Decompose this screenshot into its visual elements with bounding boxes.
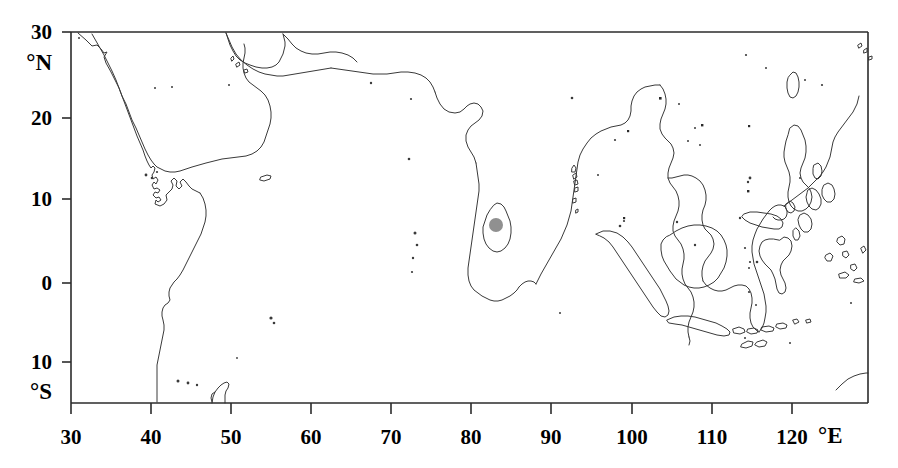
x-tick-label-80: 80 [461, 427, 482, 448]
north-hemisphere-label: °N [0, 51, 52, 74]
x-tick-label-90: 90 [541, 427, 562, 448]
east-hemisphere-label: °E [818, 424, 843, 447]
x-tick-marks [71, 403, 792, 414]
x-tick-label-110: 110 [697, 427, 727, 448]
y-tick-label-10: 10 [0, 189, 52, 210]
x-tick-label-40: 40 [141, 427, 162, 448]
data-point-sample-site[interactable] [489, 218, 503, 232]
x-tick-label-60: 60 [301, 427, 322, 448]
x-tick-label-50: 50 [221, 427, 242, 448]
y-tick-label-20: 20 [0, 108, 52, 129]
x-tick-label-30: 30 [61, 427, 82, 448]
south-hemisphere-label: °S [0, 380, 52, 403]
x-tick-label-100: 100 [616, 427, 648, 448]
y-tick-label-0: 0 [0, 273, 52, 294]
y-tick-marks [62, 32, 71, 362]
map-figure: 30 20 10 0 10 °N °S 30 40 50 60 70 80 90… [0, 0, 898, 468]
y-tick-label-minus10: 10 [0, 352, 52, 373]
map-canvas [0, 0, 898, 468]
x-tick-label-70: 70 [381, 427, 402, 448]
coastlines-layer [78, 33, 872, 403]
y-tick-label-30: 30 [0, 22, 52, 43]
x-tick-label-120: 120 [776, 427, 808, 448]
